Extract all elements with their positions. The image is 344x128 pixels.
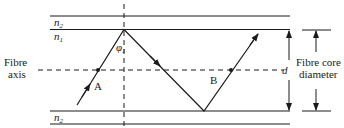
label-n2-bottom: n2: [54, 111, 64, 125]
point-b-dot: [229, 68, 233, 72]
label-n1: n1: [54, 30, 63, 44]
label-point-b: B: [210, 74, 217, 86]
label-point-a: A: [94, 80, 102, 92]
label-core-diameter-line1: Fibre core: [296, 56, 341, 68]
point-a-dot: [96, 68, 100, 72]
fibre-ray-diagram: n2 n1 n2 φ1 A B Fibre axis d Fibre core …: [0, 0, 344, 128]
ray-arrow-a-icon: [82, 84, 90, 97]
label-fibre-axis-line1: Fibre: [4, 56, 27, 68]
label-n2-top: n2: [54, 16, 64, 30]
label-fibre-axis-line2: axis: [8, 68, 26, 80]
ray-arrow-down-icon: [150, 56, 160, 66]
ray-arrow-tip-icon: [250, 34, 258, 45]
label-core-diameter-line2: diameter: [299, 68, 338, 80]
label-d: d: [282, 64, 288, 76]
